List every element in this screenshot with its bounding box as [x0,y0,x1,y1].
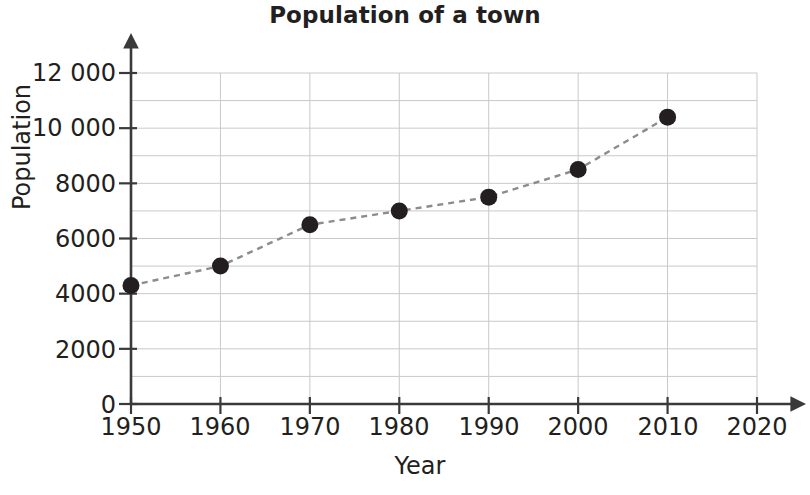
data-point [480,189,497,206]
data-point [301,216,318,233]
data-point [212,258,229,275]
data-point [391,202,408,219]
data-point [123,277,140,294]
plot-area [0,0,810,495]
data-point [570,161,587,178]
axis-ticks [119,73,757,414]
chart-figure: Population of a town Population Year 12 … [0,0,810,495]
data-point [659,109,676,126]
